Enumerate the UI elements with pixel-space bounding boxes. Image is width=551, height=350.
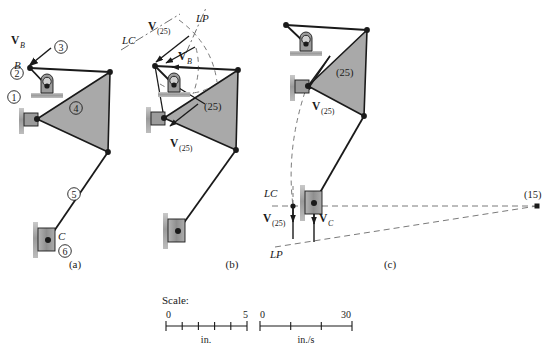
figure-background (0, 0, 551, 350)
link-number-6-text: 6 (63, 246, 68, 257)
joint-bottom-right (105, 149, 111, 155)
vector-vb-label: V (178, 50, 187, 62)
joint-top-right (107, 69, 113, 75)
construction-label-LP: LP (195, 12, 209, 24)
link-number-2-text: 2 (15, 68, 20, 79)
instant-center-15-label: (15) (524, 189, 542, 201)
point-v25-on-LC (290, 203, 295, 208)
vector-v25-upper-label: V (312, 100, 321, 112)
velocity-scale-unit: in./s (298, 334, 315, 345)
vector-v25-upper-subscript: (25) (321, 107, 335, 116)
panel-a-caption: (a) (69, 258, 82, 271)
link-number-4-text: 4 (74, 103, 79, 114)
link-number-5: 5 (68, 188, 81, 201)
joint-top-right (235, 67, 241, 73)
joint-B (283, 22, 289, 28)
vector-v25-upper-subscript: (25) (157, 27, 171, 36)
link-number-3-text: 3 (59, 42, 64, 53)
instant-center-25-label: (25) (204, 101, 222, 113)
vector-vc-label: V (319, 212, 328, 224)
panel-c-caption: (c) (384, 258, 397, 271)
scale-heading: Scale: (162, 294, 189, 306)
link-number-5-text: 5 (72, 189, 77, 200)
vector-vc-subscript: C (328, 219, 334, 228)
vector-vb-label: V (11, 34, 20, 46)
vector-vb-subscript: B (20, 41, 25, 50)
vector-vb-arrow (172, 67, 200, 68)
joint-bottom-right (361, 113, 367, 119)
length-scale-unit: in. (201, 334, 211, 345)
construction-label-LC: LC (263, 187, 278, 199)
vector-v25-lower-label: V (170, 137, 179, 149)
length-scale-min-label: 0 (166, 309, 171, 320)
panel-b-caption: (b) (226, 258, 239, 271)
joint-B (152, 63, 158, 69)
joint-bottom-right (233, 147, 239, 153)
joint-top-right (364, 27, 370, 33)
vector-v25-lower-subscript: (25) (179, 144, 193, 153)
instant-center-15-marker (535, 204, 540, 209)
kinematics-figure: V B B C 1 2 3 4 5 6 (a) (0, 0, 551, 350)
vector-v25-upper-label: V (148, 20, 157, 32)
point-label-C: C (58, 230, 66, 242)
construction-label-LP: LP (269, 248, 283, 260)
velocity-scale-min-label: 0 (260, 309, 265, 320)
vector-vb-subscript: B (187, 57, 192, 66)
length-scale-max-label: 5 (243, 309, 248, 320)
instant-center-25-label: (25) (336, 67, 354, 79)
vector-v25-lower-label: V (263, 212, 272, 224)
velocity-scale-max-label: 30 (341, 309, 351, 320)
construction-label-LC: LC (121, 34, 136, 46)
link-number-1-text: 1 (12, 92, 17, 103)
vector-v25-lower-subscript: (25) (272, 219, 286, 228)
